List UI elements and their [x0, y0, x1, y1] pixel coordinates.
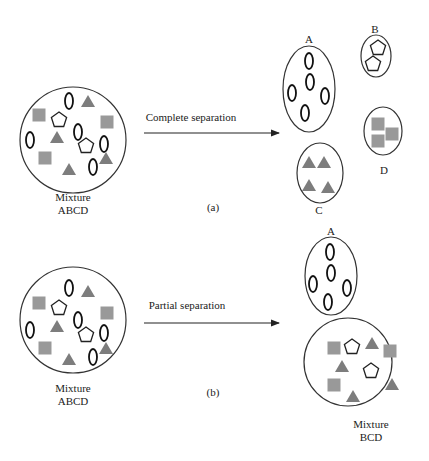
mixture-label: Mixture — [353, 418, 389, 430]
ellipse-icon — [324, 294, 332, 310]
triangle-icon — [346, 390, 360, 402]
square-icon — [33, 297, 46, 310]
ellipse-icon — [309, 276, 317, 292]
ellipse-icon — [89, 349, 97, 365]
square-icon — [101, 116, 114, 129]
ellipse-icon — [100, 325, 108, 341]
triangle-icon — [62, 353, 76, 365]
ellipse-icon — [321, 88, 329, 104]
square-icon — [33, 109, 46, 122]
triangle-icon — [302, 179, 316, 191]
mixture-abcd-circle-a — [20, 87, 126, 193]
product-c-ellipse — [297, 143, 343, 203]
product-b-ellipse — [361, 35, 391, 77]
ellipse-icon — [74, 312, 82, 328]
mixture-bcd-circle — [304, 318, 399, 406]
separation-diagram: Mixture ABCD Complete separation (a) A B — [0, 0, 429, 461]
triangle-icon — [385, 378, 399, 390]
product-label-d: D — [380, 164, 388, 176]
square-icon — [39, 342, 52, 355]
complete-separation-label: Complete separation — [146, 111, 237, 123]
triangle-icon — [335, 360, 349, 372]
mixture-abcd-circle-b — [20, 267, 126, 373]
triangle-icon — [321, 181, 335, 193]
ellipse-icon — [301, 105, 309, 121]
product-a-ellipse — [283, 46, 335, 132]
ellipse-icon — [89, 159, 97, 175]
panel-a: Mixture ABCD Complete separation (a) A B — [20, 23, 402, 216]
ellipse-icon — [327, 265, 335, 281]
triangle-icon — [81, 285, 95, 297]
pentagon-icon — [370, 40, 385, 55]
mixture-label: Mixture — [55, 191, 91, 203]
product-label-a: A — [327, 225, 335, 237]
panel-b: Mixture ABCD Partial separation (b) A — [20, 225, 399, 443]
triangle-icon — [81, 95, 95, 107]
product-label-c: C — [315, 204, 322, 216]
panel-caption: (a) — [207, 201, 220, 214]
square-icon — [328, 379, 341, 392]
triangle-icon — [302, 156, 316, 168]
triangle-icon — [317, 156, 331, 168]
square-icon — [384, 345, 397, 358]
triangle-icon — [50, 320, 64, 332]
square-icon — [39, 152, 52, 165]
mixture-label: ABCD — [58, 395, 89, 407]
square-icon — [328, 342, 341, 355]
pentagon-icon — [78, 327, 93, 342]
partial-separation-label: Partial separation — [149, 299, 226, 311]
ellipse-icon — [326, 244, 334, 260]
triangle-icon — [99, 152, 113, 164]
ellipse-icon — [65, 280, 73, 296]
pentagon-icon — [78, 138, 93, 153]
ellipse-icon — [100, 136, 108, 152]
triangle-icon — [365, 337, 379, 349]
square-icon — [372, 118, 385, 131]
pentagon-icon — [51, 300, 66, 315]
ellipse-icon — [288, 85, 296, 101]
pentagon-icon — [51, 112, 66, 127]
square-icon — [372, 135, 385, 148]
ellipse-icon — [306, 74, 314, 90]
mixture-label: ABCD — [58, 204, 89, 216]
pentagon-icon — [344, 339, 359, 354]
square-icon — [386, 128, 399, 141]
triangle-icon — [99, 342, 113, 354]
pentagon-icon — [365, 56, 380, 71]
mixture-label: Mixture — [55, 382, 91, 394]
triangle-icon — [50, 131, 64, 143]
product-label-b: B — [371, 23, 378, 35]
ellipse-icon — [343, 280, 351, 296]
panel-caption: (b) — [207, 386, 220, 399]
product-a-ellipse — [305, 237, 357, 315]
ellipse-icon — [305, 53, 313, 69]
mixture-label: BCD — [360, 431, 383, 443]
ellipse-icon — [74, 124, 82, 140]
triangle-icon — [62, 163, 76, 175]
product-d-ellipse — [364, 107, 402, 155]
ellipse-icon — [26, 322, 34, 338]
ellipse-icon — [65, 93, 73, 109]
ellipse-icon — [26, 132, 34, 148]
square-icon — [101, 307, 114, 320]
product-label-a: A — [305, 33, 313, 45]
pentagon-icon — [363, 363, 378, 378]
